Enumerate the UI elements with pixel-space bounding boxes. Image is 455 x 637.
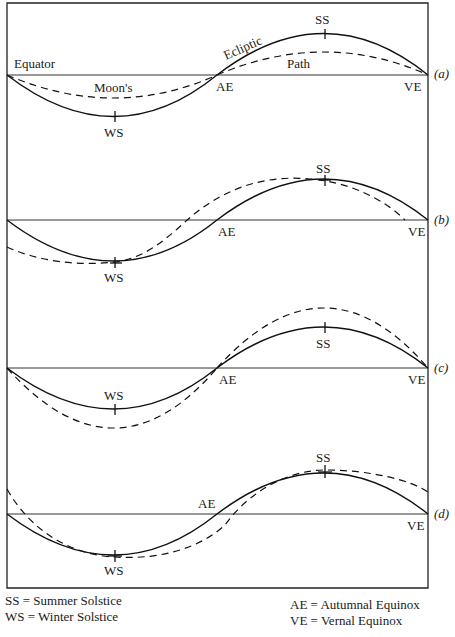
svg-text:(c): (c) <box>434 360 448 375</box>
ae-label: AE <box>216 79 233 94</box>
legend-ae: AE = Autumnal Equinox <box>290 597 420 613</box>
panel-d: WS SS AE VE (d) <box>7 450 449 578</box>
legend-left: SS = Summer Solstice WS = Winter Solstic… <box>5 593 122 625</box>
svg-text:SS: SS <box>316 336 330 351</box>
moon-path-curve <box>217 52 428 75</box>
path-label: Path <box>287 56 311 71</box>
ss-label: SS <box>315 12 329 27</box>
legend-right: AE = Autumnal Equinox VE = Vernal Equino… <box>290 597 420 629</box>
svg-text:VE: VE <box>408 372 425 387</box>
panel-label: (a) <box>434 66 449 81</box>
svg-text:WS: WS <box>104 563 124 578</box>
equator-label: Equator <box>14 56 56 71</box>
svg-text:(d): (d) <box>434 506 449 521</box>
svg-text:VE: VE <box>408 224 425 239</box>
svg-text:AE: AE <box>198 496 215 511</box>
panel-c: WS SS AE VE (c) <box>7 308 448 428</box>
svg-text:SS: SS <box>316 161 330 176</box>
moon-label: Moon's <box>94 80 132 95</box>
legend-ss: SS = Summer Solstice <box>5 593 122 609</box>
ws-label: WS <box>104 125 124 140</box>
svg-text:WS: WS <box>104 388 124 403</box>
panel-a: Equator Ecliptic Moon's Path WS SS AE VE… <box>7 12 449 140</box>
svg-text:AE: AE <box>219 372 236 387</box>
svg-text:AE: AE <box>218 224 235 239</box>
svg-text:(b): (b) <box>434 212 449 227</box>
ve-label: VE <box>404 79 421 94</box>
panel-b: WS SS AE VE (b) <box>7 161 449 285</box>
legend-ve: VE = Vernal Equinox <box>290 613 420 629</box>
svg-text:VE: VE <box>407 518 424 533</box>
legend-ws: WS = Winter Solstice <box>5 609 122 625</box>
ecliptic-moon-path-diagram: Equator Ecliptic Moon's Path WS SS AE VE… <box>0 0 455 637</box>
svg-text:SS: SS <box>316 450 330 465</box>
svg-text:WS: WS <box>104 270 124 285</box>
